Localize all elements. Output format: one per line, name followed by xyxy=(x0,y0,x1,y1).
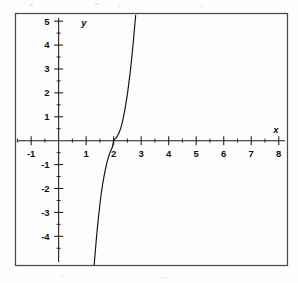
axis-tick-labels: -112345678-4-3-2-112345 xyxy=(27,16,281,242)
x-tick-label: 8 xyxy=(276,148,281,159)
x-tick-label: 2 xyxy=(111,148,116,159)
x-tick-label: 7 xyxy=(249,148,254,159)
x-tick-label: 3 xyxy=(139,148,144,159)
y-tick-label: -2 xyxy=(41,183,49,194)
y-tick-label: -1 xyxy=(41,159,50,170)
y-tick-label: -3 xyxy=(41,207,49,218)
x-tick-label: 1 xyxy=(84,148,90,159)
axes-layer xyxy=(18,18,285,262)
cubic-graph-plot: -112345678-4-3-2-112345 x y xyxy=(0,0,298,283)
y-tick-label: 5 xyxy=(44,16,50,27)
x-axis-label: x xyxy=(272,124,279,135)
y-tick-label: -4 xyxy=(41,231,50,242)
x-tick-label: 4 xyxy=(166,148,172,159)
y-tick-label: 2 xyxy=(44,87,49,98)
y-tick-label: 3 xyxy=(44,63,49,74)
y-tick-label: 1 xyxy=(44,111,50,122)
y-axis-label: y xyxy=(80,17,87,28)
x-tick-label: 5 xyxy=(194,148,200,159)
x-tick-label: 6 xyxy=(221,148,226,159)
figure-root: -112345678-4-3-2-112345 x y xyxy=(0,0,298,283)
x-tick-label: -1 xyxy=(27,148,36,159)
ticks-layer xyxy=(17,21,278,248)
plot-frame xyxy=(16,14,288,266)
y-tick-label: 4 xyxy=(44,39,50,50)
